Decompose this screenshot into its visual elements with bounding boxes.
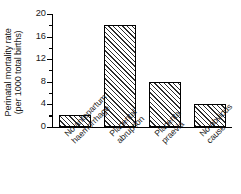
y-tick-major — [47, 82, 52, 83]
y-tick-minor — [49, 93, 52, 94]
y-tick-major — [47, 37, 52, 38]
bar-chart: Perinatal mortality rate (per 1000 total… — [0, 0, 241, 194]
y-axis-title-line-1: Perinatal mortality rate — [3, 28, 13, 116]
y-axis-line — [52, 14, 53, 128]
y-tick-minor — [49, 48, 52, 49]
y-tick-label: 4 — [41, 100, 46, 109]
y-tick-label: 16 — [36, 32, 46, 41]
y-tick-label: 12 — [36, 54, 46, 63]
y-axis-title: Perinatal mortality rate (per 1000 total… — [3, 10, 24, 134]
plot-area: 048121620 — [52, 14, 232, 128]
y-tick-label: 20 — [36, 9, 46, 18]
y-tick-minor — [49, 70, 52, 71]
y-tick-major — [47, 104, 52, 105]
y-tick-minor — [49, 115, 52, 116]
y-axis-title-line-2: (per 1000 total births) — [13, 10, 23, 134]
y-tick-label: 0 — [41, 122, 46, 131]
y-tick-minor — [49, 25, 52, 26]
y-tick-label: 8 — [41, 77, 46, 86]
y-tick-major — [47, 127, 52, 128]
y-tick-major — [47, 59, 52, 60]
y-tick-major — [47, 14, 52, 15]
